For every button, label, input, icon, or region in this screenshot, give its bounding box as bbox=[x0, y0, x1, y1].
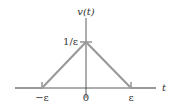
tick-label-zero: 0 bbox=[83, 92, 89, 103]
tick-label-neg-epsilon: −ε bbox=[35, 92, 49, 103]
triangle-pulse-diagram: v(t) t 1/ε −ε 0 ε bbox=[0, 0, 183, 108]
y-axis-label: v(t) bbox=[77, 6, 95, 17]
peak-label: 1/ε bbox=[63, 36, 78, 47]
x-axis-label: t bbox=[162, 82, 167, 93]
function-curve bbox=[15, 42, 156, 88]
tick-label-epsilon: ε bbox=[128, 92, 133, 103]
